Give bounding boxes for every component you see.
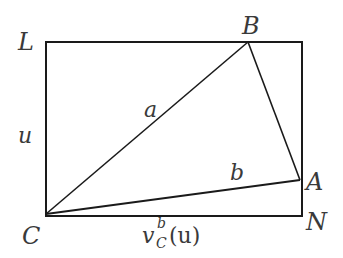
label-v: v <box>142 223 155 248</box>
label-side-u: u <box>18 123 32 148</box>
label-B: B <box>241 12 260 40</box>
segment-b <box>46 180 300 214</box>
segment-BA <box>248 42 300 180</box>
geometry-diagram: L B A C N a b u v b C (u) <box>0 0 343 258</box>
label-A: A <box>304 168 323 196</box>
label-segment-b: b <box>230 160 244 185</box>
label-N: N <box>305 208 328 236</box>
label-C: C <box>22 222 40 250</box>
label-v-arg: (u) <box>169 223 200 248</box>
label-segment-a: a <box>144 97 157 122</box>
label-L: L <box>17 28 34 56</box>
diagram-canvas: L B A C N a b u v b C (u) <box>0 0 343 258</box>
rectangle-LN <box>46 42 302 216</box>
segment-a <box>46 42 248 214</box>
label-bottom-vcb-u: v b C (u) <box>142 215 200 251</box>
label-v-sup: b <box>157 215 166 231</box>
label-v-sub: C <box>156 235 167 251</box>
